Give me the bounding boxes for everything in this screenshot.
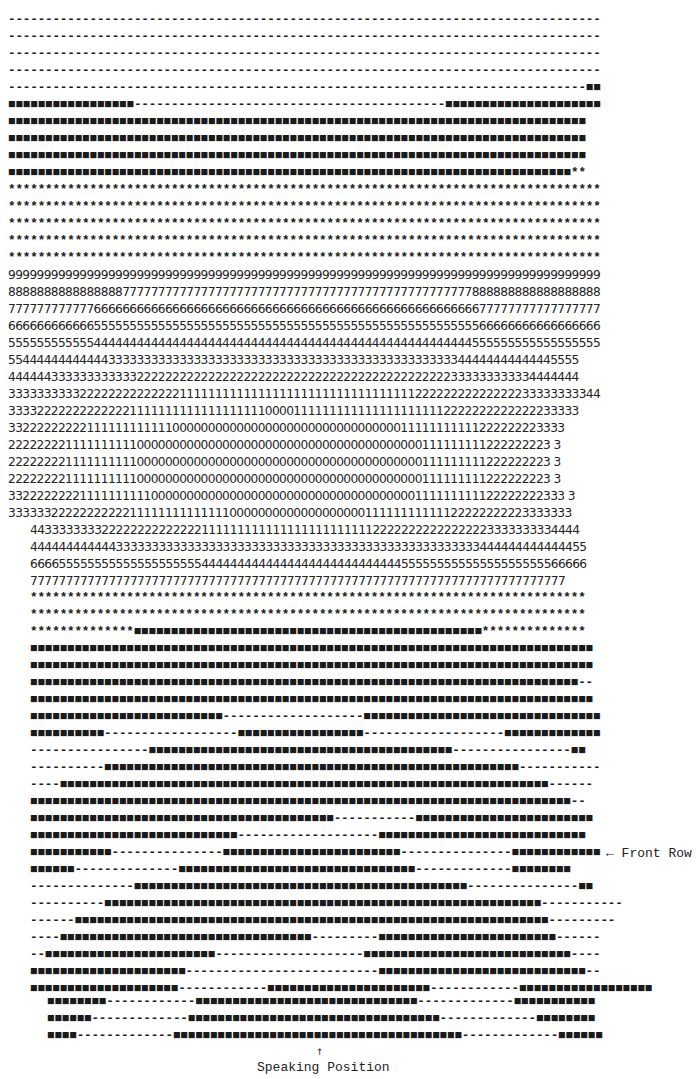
contour-row: 3322222222211111111111100000000000000000… — [8, 420, 564, 437]
symbol-row: ****************************************… — [8, 199, 601, 216]
symbol-row: ■■■■■■■■■■■■■■■■■■■■■■■■■■■■■■■■■■■■■■■■… — [8, 165, 586, 182]
contour-row: 7777777777777777777777777777777777777777… — [30, 573, 565, 590]
symbol-row: ■■■■■■■■■■■■■■■■■■■■■■■■■■■■■■■■■■■■■■■■… — [30, 794, 586, 811]
symbol-row: ■■■■■■■■■■■■■■■■■■■■■■■■■■--------------… — [30, 709, 600, 726]
seating-sound-diagram: ----------------------------------------… — [0, 0, 699, 1079]
contour-row: 2222222211111111110000000000000000000000… — [8, 437, 561, 454]
contour-row: 6666555555555555555555554444444444444444… — [30, 556, 586, 573]
symbol-row: ■■■■■■■■■■■■■■■■■■■■■■■■■■■■■■■■■■■■■■■■… — [30, 641, 593, 658]
symbol-row: --■■■■■■■■■■■■■■■■■■■■■■■---------------… — [30, 947, 600, 964]
symbol-row: ****************************************… — [8, 233, 601, 250]
symbol-row: ****************************************… — [8, 250, 601, 267]
contour-row: 7777777777776666666666666666666666666666… — [8, 301, 600, 318]
contour-row: 2222222211111111110000000000000000000000… — [8, 471, 561, 488]
symbol-row: ■■■■■■■■■■■■■■■■■■■■■■■■■■■■■■■■■■■■■■■■… — [30, 675, 593, 692]
contour-row: 5555555555554444444444444444444444444444… — [8, 335, 600, 352]
contour-row: 2222222211111111110000000000000000000000… — [8, 454, 561, 471]
symbol-row: --------------■■■■■■■■■■■■■■■■■■■■■■■■■■… — [30, 879, 593, 896]
contour-row: 4444443333333333332222222222222222222222… — [8, 369, 579, 386]
contour-row: 4433333333222222222222221111111111111111… — [30, 522, 579, 539]
symbol-row: ■■■■■■--------------■■■■■■■■■■■■■■■■■■■■… — [30, 862, 571, 879]
contour-row: 3322222222111111111100000000000000000000… — [8, 488, 575, 505]
symbol-row: ----------------------------------------… — [8, 12, 601, 29]
symbol-row: ----------------------------------------… — [8, 63, 601, 80]
symbol-row: ■■■■■■■■■■■■■■■■■■■■■■■■■■■■------------… — [30, 828, 586, 845]
contour-row: 9999999999999999999999999999999999999999… — [8, 267, 600, 284]
symbol-row: ----------■■■■■■■■■■■■■■■■■■■■■■■■■■■■■■… — [30, 896, 623, 913]
symbol-row: ■■■■■■■■■■■■■■■■■■■■■■■■■■■■■■■■■■■■■■■■… — [8, 114, 586, 131]
front-row-label: ← Front Row — [606, 846, 692, 861]
symbol-row: ****************************************… — [30, 607, 586, 624]
symbol-row: ■■■■-------------■■■■■■■■■■■■■■■■■■■■■■■… — [47, 1028, 603, 1045]
symbol-row: ****************************************… — [8, 216, 601, 233]
front-row: ■■■■■■■■■■■---------------■■■■■■■■■■■■■■… — [30, 845, 600, 862]
symbol-row: ----------------■■■■■■■■■■■■■■■■■■■■■■■■… — [30, 743, 586, 760]
symbol-row: ■■■■■■■■■■■■■■■■■■■■■■■■■■■■■■■■■■■■■■■■… — [8, 148, 586, 165]
symbol-row: ■■■■■■■■■■■■■■■■■■■■■■■■■■■■■■■■■■■■■■■■… — [30, 692, 593, 709]
contour-row: 6666666666665555555555555555555555555555… — [8, 318, 600, 335]
contour-row: 3333222222222222211111111111111111110000… — [8, 403, 579, 420]
symbol-row: ----------------------------------------… — [8, 80, 601, 97]
contour-row: 4444444444443333333333333333333333333333… — [30, 539, 586, 556]
symbol-row: ------■■■■■■■■■■■■■■■■■■■■■■■■■■■■■■■■■■… — [30, 913, 615, 930]
symbol-row: ----------■■■■■■■■■■■■■■■■■■■■■■■■■■■■■■… — [30, 760, 600, 777]
symbol-row: ■■■■■■■■■■■■■■■■■-----------------------… — [8, 97, 601, 114]
symbol-row: ■■■■■■■■■■■■■■■■■■■■■■■■■■■■■■■■■■■■■■■■… — [30, 811, 593, 828]
symbol-row: ----■■■■■■■■■■■■■■■■■■■■■■■■■■■■■■■■■■■■… — [30, 777, 593, 794]
symbol-row: ■■■■■■■■------------■■■■■■■■■■■■■■■■■■■■… — [47, 994, 595, 1011]
up-arrow-icon: ↑ — [316, 1047, 324, 1057]
contour-row: 3333333333222222222222221111111111111111… — [8, 386, 600, 403]
contour-row: 5544444444444433333333333333333333333333… — [8, 352, 579, 369]
contour-row: 3333332222222222211111111111111000000000… — [8, 505, 572, 522]
symbol-row: ■■■■■■■■■■■■■■■■■■■■■■■■■■■■■■■■■■■■■■■■… — [30, 658, 593, 675]
symbol-row: ■■■■■■■■■■------------------■■■■■■■■■■■■… — [30, 726, 600, 743]
symbol-row: **************■■■■■■■■■■■■■■■■■■■■■■■■■■… — [30, 624, 586, 641]
speaking-position-label: Speaking Position — [257, 1060, 390, 1075]
contour-row: 8888888888888888777777777777777777777777… — [8, 284, 600, 301]
symbol-row: ■■■■■■■■■■■■■■■■■■■■■-------------------… — [30, 964, 600, 981]
symbol-row: ----■■■■■■■■■■■■■■■■■■■■■■■■■■■■■■■■■■--… — [30, 930, 600, 947]
symbol-row: ■■■■■■■■■■■■■■■■■■■■■■■■■■■■■■■■■■■■■■■■… — [8, 131, 586, 148]
symbol-row: ■■■■■■-------------■■■■■■■■■■■■■■■■■■■■■… — [47, 1011, 595, 1028]
symbol-row: ----------------------------------------… — [8, 29, 601, 46]
symbol-row: ----------------------------------------… — [8, 46, 601, 63]
symbol-row: ****************************************… — [8, 182, 601, 199]
symbol-row: ****************************************… — [30, 590, 586, 607]
